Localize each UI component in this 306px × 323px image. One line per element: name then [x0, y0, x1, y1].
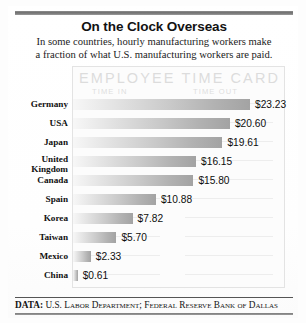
bar-value-label: $16.15 [201, 156, 232, 167]
bar [73, 99, 250, 110]
chart-row: Germany$23.23 [0, 99, 306, 118]
bar-category-label: Korea [0, 214, 68, 224]
bar-value-label: $7.82 [138, 213, 164, 224]
bar-category: Germany [0, 100, 68, 110]
bar [73, 251, 91, 262]
chart-row: China$0.61 [0, 270, 306, 289]
bar-category-label: Kingdom [0, 165, 68, 175]
bar-category-label: Japan [0, 138, 68, 148]
bar [73, 270, 78, 281]
footer-divider-top [15, 297, 293, 298]
bar-value-label: $10.88 [161, 194, 192, 205]
source-note: DATA: U.S. Labor Department; Federal Res… [15, 300, 293, 310]
source-text: U.S. Labor Department; Federal Reserve B… [45, 300, 278, 310]
bar-category: Mexico [0, 252, 68, 262]
bar-category: USA [0, 119, 68, 129]
infographic-figure: On the Clock Overseas In some countries,… [0, 0, 306, 323]
bar-category: Japan [0, 138, 68, 148]
chart-row: Korea$7.82 [0, 213, 306, 232]
bar-value-label: $20.60 [235, 118, 266, 129]
bar-category: Spain [0, 195, 68, 205]
bar-value-label: $15.80 [198, 175, 229, 186]
bar [73, 175, 193, 186]
bar-category-label: Mexico [0, 252, 68, 262]
bar-category: Korea [0, 214, 68, 224]
chart-row: Spain$10.88 [0, 194, 306, 213]
bar-category: China [0, 271, 68, 281]
bar-value-label: $2.33 [96, 251, 122, 262]
bar-value-label: $23.23 [255, 99, 286, 110]
bar-category-label: Taiwan [0, 233, 68, 243]
bar [73, 213, 133, 224]
bar-category: Taiwan [0, 233, 68, 243]
bar-category-label: Germany [0, 100, 68, 110]
footer-divider-bottom [15, 313, 293, 315]
chart-row: UnitedKingdom$16.15 [0, 156, 306, 175]
bar [73, 118, 230, 129]
bar-category: Canada [0, 176, 68, 186]
bar-category-label: China [0, 271, 68, 281]
bar-value-label: $0.61 [83, 270, 109, 281]
chart-row: Mexico$2.33 [0, 251, 306, 270]
bar-value-label: $19.61 [227, 137, 258, 148]
bar-category: UnitedKingdom [0, 155, 68, 174]
bar-value-label: $5.70 [121, 232, 147, 243]
chart-row: Taiwan$5.70 [0, 232, 306, 251]
bar-chart-plot: Germany$23.23USA$20.60Japan$19.61UnitedK… [0, 0, 306, 323]
chart-row: USA$20.60 [0, 118, 306, 137]
bar [73, 137, 222, 148]
bar [73, 156, 196, 167]
bar-category-label: Canada [0, 176, 68, 186]
bar [73, 194, 156, 205]
bar-category-label: Spain [0, 195, 68, 205]
source-label: DATA: [15, 300, 43, 310]
bar [73, 232, 116, 243]
bar-category-label: USA [0, 119, 68, 129]
chart-row: Canada$15.80 [0, 175, 306, 194]
